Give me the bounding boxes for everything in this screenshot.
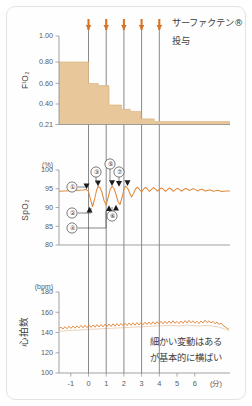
clinical-trend-figure: サーファクテン® 投与 1.00 0.80 0.60	[0, 0, 252, 406]
callout-number: ④	[70, 224, 75, 231]
spo2-ytick-label: 85	[45, 222, 53, 231]
panel-spo2: (%) 100 95 90 85 80 SpO₂	[20, 159, 230, 250]
x-tick-label: 3	[140, 379, 144, 388]
spo2-axis-title: SpO₂	[20, 199, 30, 221]
x-tick-label: 0	[86, 379, 90, 388]
hr-ytick-label: 100	[41, 368, 53, 377]
x-tick-label: 1	[104, 379, 108, 388]
callout-number: ⑦	[117, 168, 122, 175]
surfactant-label-line2: 投与	[172, 35, 190, 46]
hr-trace	[59, 320, 229, 329]
x-axis-unit-label: (分)	[210, 379, 222, 388]
hr-axis-title: 心拍数	[18, 317, 29, 347]
spo2-ytick-label: 95	[45, 184, 53, 193]
chart-svg: サーファクテン® 投与 1.00 0.80 0.60	[0, 0, 252, 406]
fio2-ytick-label: 0.80	[39, 57, 53, 66]
hr-ytick-label: 140	[41, 328, 53, 337]
x-tick-label: 2	[122, 379, 126, 388]
callout-number: ⑤	[108, 160, 113, 167]
x-tick-label: 6	[193, 379, 197, 388]
surfactant-dose-arrows	[89, 19, 160, 30]
spo2-ytick-label: 80	[45, 240, 53, 249]
fio2-y-ticks	[56, 36, 60, 125]
fio2-ytick-label: 0.21	[39, 120, 53, 129]
surfactant-label-line1: サーファクテン®	[172, 17, 243, 28]
spo2-ytick-label: 90	[45, 203, 53, 212]
panel-fio2: 1.00 0.80 0.60 0.40 0.21 FᴵO₂	[20, 31, 230, 128]
x-axis: -1 0 1 2 3 4 5 6 (分)	[68, 373, 222, 388]
x-tick-label: -1	[68, 379, 75, 388]
callout-number: ⑥	[110, 212, 115, 219]
hr-note-line2: が基本的に横ばい	[150, 352, 222, 363]
hr-ytick-label: 120	[41, 348, 53, 357]
hr-note-line1: 細かい変動はある	[150, 336, 222, 347]
hr-ytick-label: 160	[41, 308, 53, 317]
fio2-ytick-label: 0.40	[39, 99, 53, 108]
x-tick-label: 4	[157, 379, 161, 388]
callout-number: ③	[94, 168, 99, 175]
hr-ytick-label: 180	[41, 287, 53, 296]
x-tick-label: 5	[175, 379, 179, 388]
spo2-marker-triangles	[84, 180, 131, 212]
callout-number: ①	[70, 183, 75, 190]
fio2-ytick-label: 1.00	[39, 31, 53, 40]
hr-y-ticks	[56, 292, 60, 373]
fio2-axis-title: FᴵO₂	[20, 71, 30, 89]
x-axis-ticks	[71, 373, 195, 377]
spo2-ytick-label: 100	[41, 165, 53, 174]
fio2-ytick-label: 0.60	[39, 79, 53, 88]
dose-event-vlines	[89, 30, 160, 373]
spo2-y-ticks	[56, 170, 60, 245]
spo2-trace	[59, 186, 230, 207]
fio2-area-fill	[59, 62, 230, 125]
callout-number: ②	[70, 209, 75, 216]
